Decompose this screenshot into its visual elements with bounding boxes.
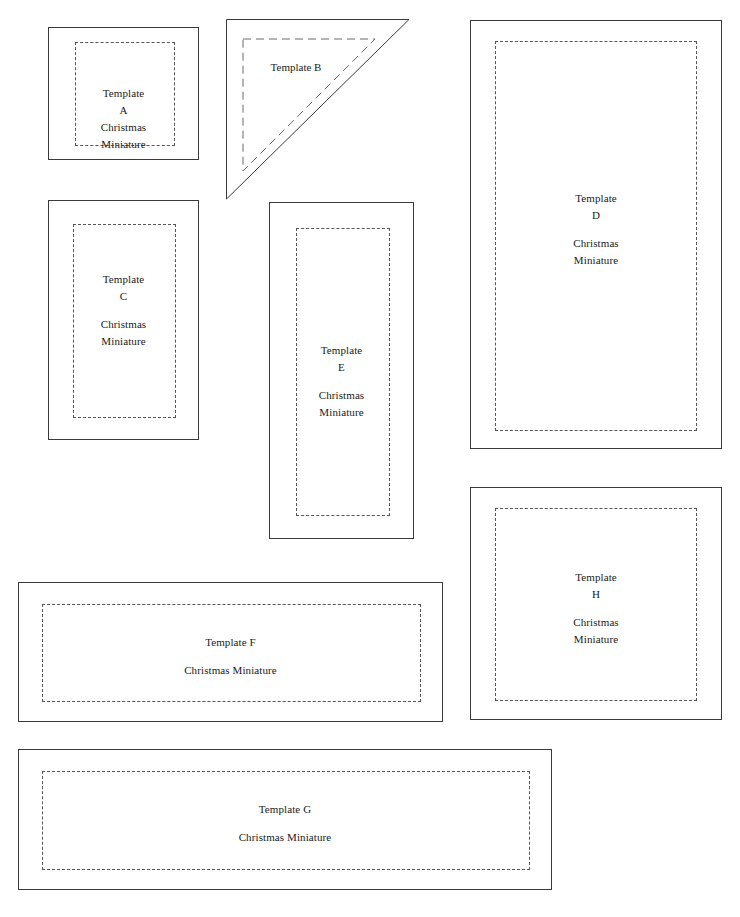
template-b-letter: B: [314, 61, 321, 73]
template-g-seam-line: [42, 771, 530, 870]
template-b-label: Template B: [240, 59, 352, 76]
template-c-outline[interactable]: Template C Christmas Miniature: [48, 200, 199, 440]
template-f-seam-line: [42, 604, 421, 702]
template-b-name: Template: [271, 61, 312, 73]
template-a-seam-line: [75, 42, 175, 146]
template-e-outline[interactable]: Template E Christmas Miniature: [269, 202, 414, 539]
template-a-outline[interactable]: Template A Christmas Miniature: [48, 27, 199, 160]
template-sheet: Template A Christmas Miniature Template …: [0, 0, 740, 917]
template-g-outline[interactable]: Template G Christmas Miniature: [18, 749, 552, 890]
template-b-triangle-shape: [226, 19, 410, 200]
template-d-seam-line: [495, 41, 697, 431]
template-h-outline[interactable]: Template H Christmas Miniature: [470, 487, 722, 720]
template-b-outline[interactable]: Template B: [226, 19, 410, 200]
template-h-seam-line: [495, 508, 697, 701]
template-f-outline[interactable]: Template F Christmas Miniature: [18, 582, 443, 722]
template-d-outline[interactable]: Template D Christmas Miniature: [470, 20, 722, 449]
template-c-seam-line: [73, 224, 176, 418]
template-e-seam-line: [296, 228, 390, 516]
